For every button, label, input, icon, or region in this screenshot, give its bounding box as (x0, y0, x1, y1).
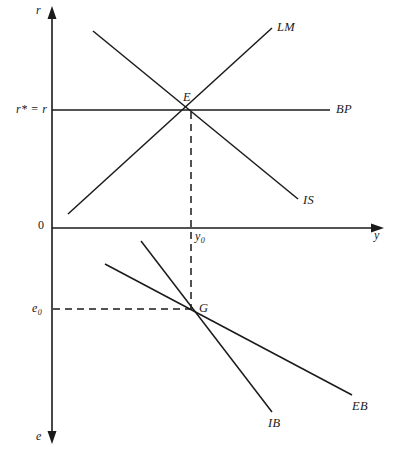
ib-curve-label: IB (268, 417, 280, 430)
bp-curve-label: BP (336, 103, 352, 116)
origin-label: 0 (38, 219, 44, 231)
r-axis-label: r (36, 4, 41, 16)
g-point-label: G (199, 302, 208, 315)
r-axis-arrow-icon (48, 6, 57, 19)
y-axis-label: y (374, 229, 380, 241)
economics-diagram-figure: r e y 0 r* = r e0 y0 LM IS BP IB EB E G (0, 0, 395, 458)
y0-tick-label: y0 (195, 230, 205, 245)
is-curve-label: IS (303, 194, 314, 207)
e0-subscript: 0 (38, 308, 42, 317)
ib-curve (141, 241, 272, 412)
y0-subscript: 0 (201, 236, 205, 245)
eb-curve-label: EB (352, 400, 368, 413)
e0-tick-label: e0 (32, 302, 42, 317)
e-point-label: E (183, 91, 191, 104)
e-axis-arrow-icon (48, 431, 57, 444)
interest-rate-tick-label: r* = r (16, 103, 47, 115)
e-axis-label: e (36, 430, 42, 442)
lower-panel-curves (105, 241, 352, 412)
is-curve (93, 31, 298, 199)
lm-curve-label: LM (277, 21, 295, 34)
eb-curve (105, 264, 352, 395)
axes-group (48, 6, 385, 444)
lm-curve (68, 28, 272, 214)
